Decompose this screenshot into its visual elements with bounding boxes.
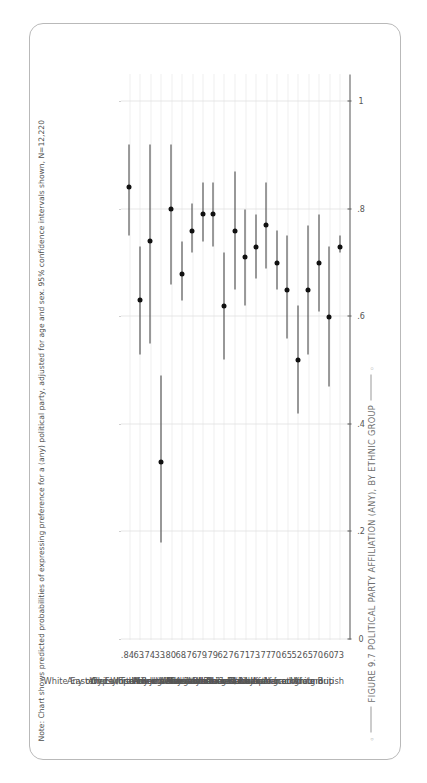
category-gridline <box>308 74 310 639</box>
axis-tick-label-0: 0 <box>358 635 363 644</box>
figure-note: Note: Chart shows predicted probabilitie… <box>36 41 47 741</box>
data-point <box>305 287 310 292</box>
category-gridline <box>245 74 247 639</box>
category-gridline <box>181 74 183 639</box>
axis-tick-0 <box>347 638 351 639</box>
confidence-interval <box>181 241 182 300</box>
data-point <box>263 222 268 227</box>
title-rule-right <box>370 374 371 400</box>
value-axis <box>349 74 350 639</box>
data-point <box>126 185 131 190</box>
category-gridline <box>234 74 236 639</box>
category-gridline <box>287 74 289 639</box>
axis-tick-.2 <box>347 530 351 531</box>
data-point <box>232 228 237 233</box>
title-rule-left <box>370 706 371 732</box>
data-point <box>147 238 152 243</box>
value-label: .73 <box>331 651 344 660</box>
category-gridline <box>266 74 268 639</box>
data-point <box>284 287 289 292</box>
category-gridline <box>139 74 141 639</box>
axis-tick-.6 <box>347 315 351 316</box>
figure-title: ◦FIGURE 9.7 POLITICAL PARTY AFFILIATION … <box>366 24 376 759</box>
plot-area: 0.2.4.6.81White Irish.84White Eastern Eu… <box>118 74 350 639</box>
data-point <box>316 260 321 265</box>
data-point <box>274 260 279 265</box>
data-point <box>137 298 142 303</box>
data-point <box>295 357 300 362</box>
axis-tick-.8 <box>347 208 351 209</box>
title-bullet-right: ◦ <box>367 365 376 370</box>
data-point <box>200 211 205 216</box>
data-point <box>179 271 184 276</box>
category-gridline <box>213 74 215 639</box>
category-gridline <box>202 74 204 639</box>
data-point <box>221 303 226 308</box>
axis-tick-label-.2: .2 <box>357 527 365 536</box>
axis-tick-.4 <box>347 423 351 424</box>
confidence-interval <box>170 144 171 284</box>
data-point <box>168 206 173 211</box>
category-gridline <box>160 74 162 639</box>
axis-tick-label-.8: .8 <box>357 204 365 213</box>
data-point <box>337 244 342 249</box>
category-label: White British <box>291 677 344 686</box>
axis-tick-label-1: 1 <box>358 96 363 105</box>
data-point <box>242 254 247 259</box>
confidence-interval <box>128 144 129 235</box>
category-gridline <box>276 74 278 639</box>
category-gridline <box>192 74 194 639</box>
category-gridline <box>318 74 320 639</box>
confidence-interval <box>149 144 150 343</box>
figure-stage: ◦FIGURE 9.7 POLITICAL PARTY AFFILIATION … <box>30 24 400 759</box>
axis-tick-1 <box>347 100 351 101</box>
data-point <box>210 211 215 216</box>
data-point <box>253 244 258 249</box>
confidence-interval <box>191 203 192 251</box>
category-gridline <box>339 74 341 639</box>
data-point <box>158 459 163 464</box>
figure-card: ◦FIGURE 9.7 POLITICAL PARTY AFFILIATION … <box>29 23 401 760</box>
category-gridline <box>255 74 257 639</box>
axis-tick-label-.4: .4 <box>357 419 365 428</box>
figure-title-text: FIGURE 9.7 POLITICAL PARTY AFFILIATION (… <box>366 404 376 702</box>
title-bullet-left: ◦ <box>367 736 376 741</box>
axis-tick-label-.6: .6 <box>357 312 365 321</box>
data-point <box>326 314 331 319</box>
data-point <box>189 228 194 233</box>
